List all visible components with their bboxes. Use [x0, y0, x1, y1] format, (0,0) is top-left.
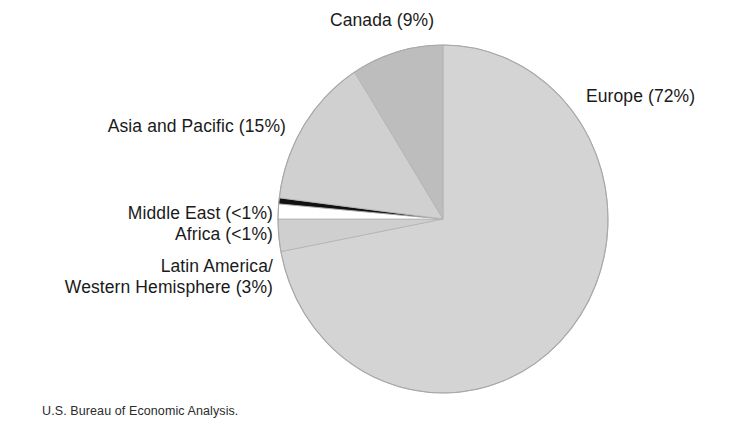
- pie-label-africa-text: Africa (<1%): [175, 224, 273, 244]
- pie-label-middle-east: Middle East (<1%): [20, 203, 273, 224]
- pie-label-europe-text: Europe (72%): [586, 86, 695, 106]
- pie-label-middle-east-text: Middle East (<1%): [128, 203, 273, 223]
- pie-label-asia-and-pacific-text: Asia and Pacific (15%): [108, 116, 286, 136]
- source-note: U.S. Bureau of Economic Analysis.: [42, 404, 238, 418]
- pie-label-africa: Africa (<1%): [20, 224, 273, 245]
- pie-label-latin-america-western-hemisphere: Latin America/ Western Hemisphere (3%): [10, 256, 273, 298]
- pie-slice-group: [278, 45, 608, 393]
- pie-chart-figure: Canada (9%) Europe (72%) Asia and Pacifi…: [0, 0, 737, 448]
- pie-label-latin-america-line1: Latin America/: [161, 256, 273, 276]
- pie-label-latin-america-line2: Western Hemisphere (3%): [10, 277, 273, 298]
- pie-label-canada: Canada (9%): [282, 10, 482, 31]
- pie-label-canada-text: Canada (9%): [330, 10, 434, 30]
- pie-label-europe: Europe (72%): [586, 86, 736, 107]
- pie-label-asia-and-pacific: Asia and Pacific (15%): [20, 116, 286, 137]
